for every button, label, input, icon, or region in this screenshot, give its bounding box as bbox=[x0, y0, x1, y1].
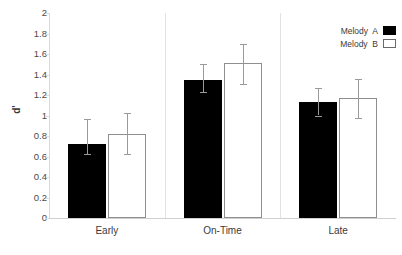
error-bar-cap-lower bbox=[200, 92, 207, 93]
bar-on-time-series-a bbox=[184, 80, 222, 218]
y-tick-mark bbox=[46, 116, 49, 117]
y-tick-label: 1.2 bbox=[13, 90, 47, 99]
error-bar-cap-lower bbox=[240, 84, 247, 85]
legend-label: Melody A bbox=[341, 26, 378, 36]
error-bar-stem bbox=[87, 119, 88, 155]
error-bar-stem bbox=[358, 79, 359, 118]
x-tick-label-late: Late bbox=[280, 225, 396, 236]
y-tick-mark bbox=[46, 136, 49, 137]
bar-chart: d' 21.81.61.41.210.80.60.40.20 EarlyOn-T… bbox=[0, 0, 402, 255]
y-tick-mark bbox=[46, 75, 49, 76]
y-tick-label: 0.4 bbox=[13, 172, 47, 181]
error-bar-cap-upper bbox=[124, 113, 131, 114]
y-tick-mark bbox=[46, 177, 49, 178]
y-tick-label: 0.2 bbox=[13, 193, 47, 202]
y-tick-mark bbox=[46, 13, 49, 14]
y-tick-label: 0.6 bbox=[13, 152, 47, 161]
error-bar-cap-lower bbox=[84, 154, 91, 155]
error-bar-cap-upper bbox=[84, 119, 91, 120]
y-tick-label: 2 bbox=[13, 8, 47, 17]
error-bar-cap-upper bbox=[315, 88, 322, 89]
y-tick-mark bbox=[46, 95, 49, 96]
x-tick-label-on-time: On-Time bbox=[165, 225, 281, 236]
legend: Melody AMelody B bbox=[300, 25, 396, 51]
error-bar-stem bbox=[203, 64, 204, 92]
y-tick-mark bbox=[46, 34, 49, 35]
y-tick-label: 1.4 bbox=[13, 70, 47, 79]
legend-swatch-b bbox=[383, 39, 396, 48]
y-tick-label: 0.8 bbox=[13, 131, 47, 140]
y-tick-mark bbox=[46, 198, 49, 199]
y-tick-label: 1.8 bbox=[13, 29, 47, 38]
y-tick-label: 0 bbox=[13, 213, 47, 222]
y-axis-tick-labels: 21.81.61.41.210.80.60.40.20 bbox=[5, 0, 47, 255]
error-bar-stem bbox=[243, 44, 244, 84]
y-tick-mark bbox=[46, 54, 49, 55]
x-axis-baseline bbox=[48, 218, 396, 219]
legend-swatch-a bbox=[383, 26, 396, 35]
group-separator bbox=[165, 13, 166, 218]
bar-late-series-a bbox=[299, 102, 337, 218]
group-separator bbox=[280, 13, 281, 218]
y-tick-label: 1.6 bbox=[13, 49, 47, 58]
y-tick-mark bbox=[46, 218, 49, 219]
legend-label: Melody B bbox=[340, 39, 378, 49]
legend-item-b: Melody B bbox=[300, 38, 396, 49]
error-bar-cap-upper bbox=[355, 79, 362, 80]
error-bar-stem bbox=[127, 113, 128, 154]
error-bar-cap-upper bbox=[240, 44, 247, 45]
error-bar-cap-upper bbox=[200, 64, 207, 65]
error-bar-cap-lower bbox=[124, 154, 131, 155]
bar-on-time-series-b bbox=[224, 63, 262, 218]
x-tick-label-early: Early bbox=[49, 225, 165, 236]
error-bar-stem bbox=[318, 88, 319, 116]
y-tick-mark bbox=[46, 157, 49, 158]
error-bar-cap-lower bbox=[315, 116, 322, 117]
y-tick-label: 1 bbox=[13, 111, 47, 120]
legend-item-a: Melody A bbox=[300, 25, 396, 36]
error-bar-cap-lower bbox=[355, 118, 362, 119]
